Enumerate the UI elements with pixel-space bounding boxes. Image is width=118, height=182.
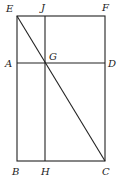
label-A: A bbox=[4, 58, 12, 69]
label-G: G bbox=[49, 51, 57, 62]
label-H: H bbox=[40, 166, 50, 177]
label-B: B bbox=[11, 166, 19, 177]
label-E: E bbox=[5, 3, 14, 14]
geometry-diagram: E J F A G D B H C bbox=[0, 0, 118, 182]
label-F: F bbox=[101, 2, 110, 13]
diagonal-EC bbox=[17, 16, 105, 161]
label-D: D bbox=[107, 58, 116, 69]
label-J: J bbox=[39, 2, 46, 13]
label-C: C bbox=[102, 166, 110, 177]
